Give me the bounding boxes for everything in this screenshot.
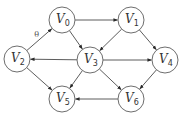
node-v4: V4 — [152, 47, 178, 73]
node-v3: V3 — [77, 47, 103, 73]
directed-graph: θ V0V1V2V3V4V5V6 — [0, 0, 186, 121]
edge-v3-v5 — [70, 71, 83, 88]
edge-v3-v6 — [99, 69, 121, 90]
edge-v2-v5 — [27, 68, 52, 90]
node-v2: V2 — [4, 46, 30, 72]
edge-v3-v2 — [31, 59, 78, 60]
edge-v4-v6 — [140, 70, 157, 89]
node-v6: V6 — [118, 86, 144, 112]
node-v1: V1 — [118, 7, 144, 33]
nodes-layer: V0V1V2V3V4V5V6 — [4, 7, 178, 112]
edge-v2-v0 — [27, 29, 52, 51]
node-v0: V0 — [49, 7, 75, 33]
edge-label: θ — [34, 30, 39, 39]
edge-v1-v4 — [139, 30, 156, 50]
edge-v0-v3 — [70, 31, 83, 49]
edge-v1-v3 — [100, 29, 122, 50]
node-v5: V5 — [49, 86, 75, 112]
